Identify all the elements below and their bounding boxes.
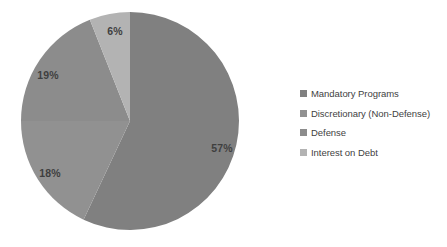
legend-swatch-icon-1 bbox=[300, 90, 307, 97]
legend-item-3[interactable]: Defense bbox=[300, 123, 445, 143]
pie-svg bbox=[0, 0, 270, 247]
legend-item-label: Mandatory Programs bbox=[311, 89, 399, 99]
legend-item-4[interactable]: Interest on Debt bbox=[300, 143, 445, 163]
legend-swatch-icon-3 bbox=[300, 129, 307, 136]
pie-plot-area: 57%18%19%6% bbox=[0, 0, 270, 247]
legend-item-label: Defense bbox=[311, 128, 346, 138]
legend: Mandatory ProgramsDiscretionary (Non-Def… bbox=[300, 84, 445, 162]
legend-item-label: Discretionary (Non-Defense) bbox=[311, 109, 430, 119]
pie-chart: 57%18%19%6% Mandatory ProgramsDiscretion… bbox=[0, 0, 447, 247]
pie-slice-group bbox=[21, 12, 239, 230]
legend-item-1[interactable]: Mandatory Programs bbox=[300, 84, 445, 104]
legend-item-label: Interest on Debt bbox=[311, 148, 378, 158]
legend-swatch-icon-2 bbox=[300, 110, 307, 117]
legend-item-2[interactable]: Discretionary (Non-Defense) bbox=[300, 104, 445, 124]
legend-swatch-icon-4 bbox=[300, 149, 307, 156]
